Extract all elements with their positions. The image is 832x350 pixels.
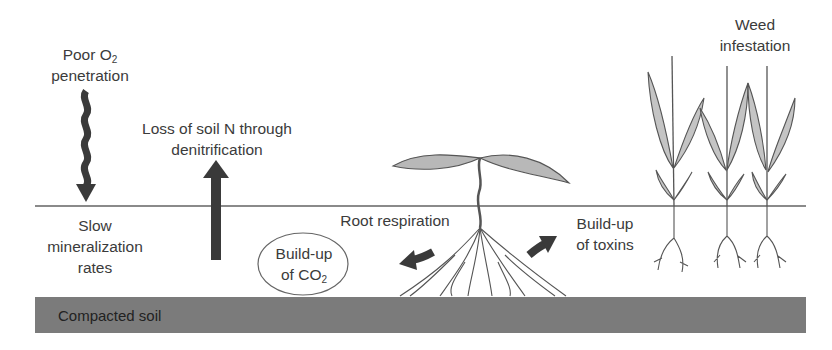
slow-mineralization-label: Slow mineralization rates bbox=[30, 215, 160, 278]
weed-plant-icon bbox=[648, 56, 795, 272]
weed-infestation-label: Weed infestation bbox=[700, 14, 810, 56]
poor-o2-label: Poor O2 penetration bbox=[40, 44, 140, 86]
compacted-soil-label: Compacted soil bbox=[58, 307, 161, 324]
co2-buildup-label: Build-up of CO2 bbox=[258, 243, 350, 285]
loss-soil-n-label: Loss of soil N through denitrification bbox=[112, 118, 322, 160]
curved-left-arrow-icon bbox=[399, 250, 433, 270]
curved-right-arrow-icon bbox=[529, 236, 557, 255]
root-respiration-label: Root respiration bbox=[320, 210, 470, 231]
toxins-buildup-label: Build-up of toxins bbox=[560, 213, 650, 255]
wavy-down-arrow-icon bbox=[76, 91, 96, 202]
up-arrow-icon bbox=[203, 160, 229, 260]
